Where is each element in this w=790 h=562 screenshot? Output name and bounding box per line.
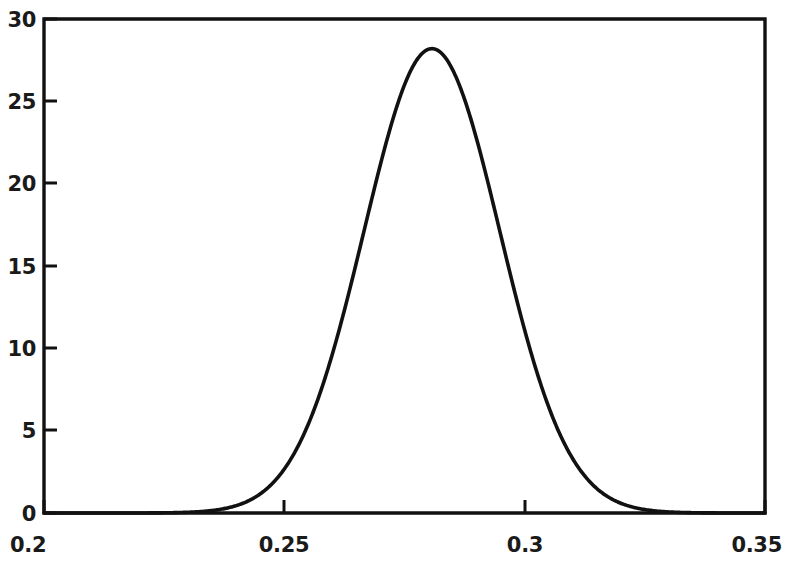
x-axis-label-0-25: 0.25 bbox=[259, 533, 310, 557]
x-axis-label-0-35: 0.35 bbox=[731, 533, 782, 557]
y-axis-labels: 0 5 10 15 20 25 30 bbox=[7, 8, 36, 526]
y-axis-label-20: 20 bbox=[7, 172, 36, 196]
y-axis-label-5: 5 bbox=[22, 419, 36, 443]
chart-figure: 0 5 10 15 20 25 30 0.2 0.25 0.3 0.35 bbox=[0, 0, 790, 562]
y-axis-label-30: 30 bbox=[7, 8, 36, 32]
y-axis-label-15: 15 bbox=[7, 255, 36, 279]
y-axis-label-0: 0 bbox=[22, 502, 36, 526]
density-curve bbox=[44, 49, 765, 513]
y-axis-label-10: 10 bbox=[7, 337, 36, 361]
probability-density-chart: 0 5 10 15 20 25 30 0.2 0.25 0.3 0.35 bbox=[0, 0, 790, 562]
x-axis-labels: 0.2 0.25 0.3 0.35 bbox=[10, 533, 782, 557]
plot-frame bbox=[44, 19, 765, 513]
y-axis-label-25: 25 bbox=[7, 90, 36, 114]
x-axis-label-0-2: 0.2 bbox=[10, 533, 46, 557]
x-axis-label-0-3: 0.3 bbox=[507, 533, 543, 557]
y-axis-ticks bbox=[44, 19, 57, 513]
